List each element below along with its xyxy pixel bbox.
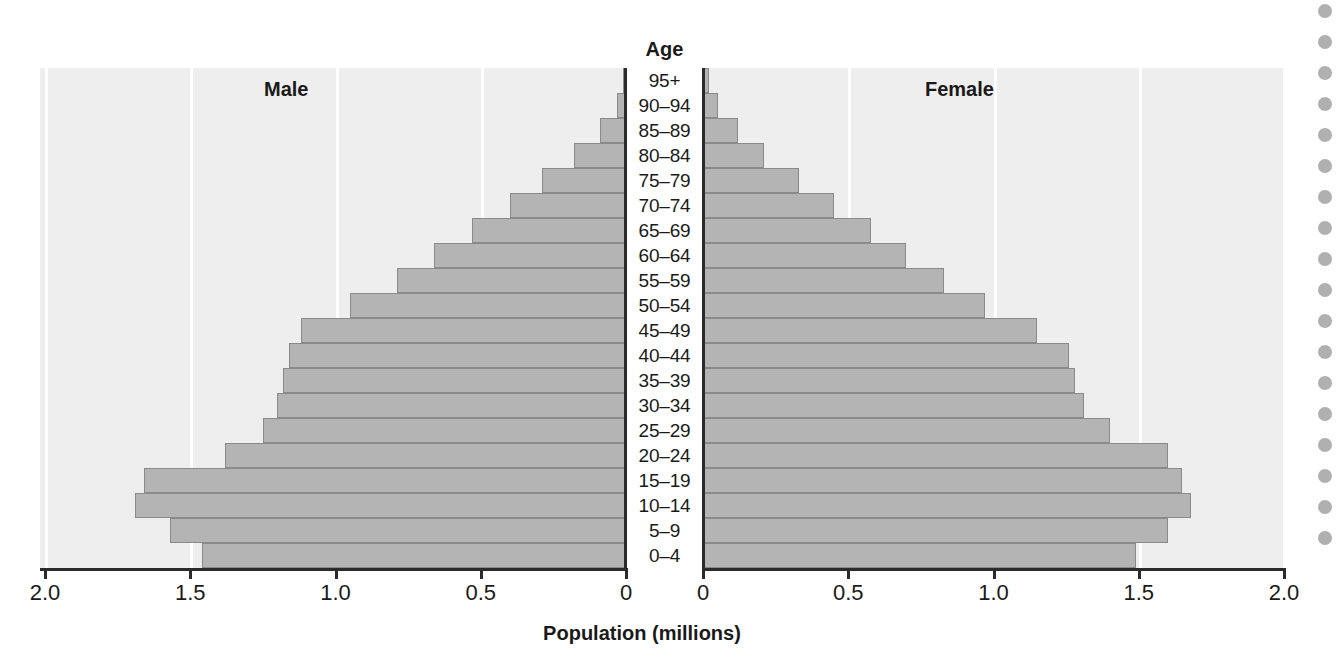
female-panel-label: Female	[925, 78, 994, 101]
age-group-label: 15–19	[626, 468, 703, 493]
age-group-label: 65–69	[626, 218, 703, 243]
scroll-dot[interactable]	[1318, 438, 1332, 452]
x-axis-tick	[1283, 568, 1286, 579]
female-bar	[703, 393, 1084, 418]
scroll-dot[interactable]	[1318, 97, 1332, 111]
male-bar	[225, 443, 626, 468]
age-group-label: 35–39	[626, 368, 703, 393]
x-axis-tick-label: 0.5	[465, 580, 496, 606]
female-bar	[703, 518, 1168, 543]
scroll-dot[interactable]	[1318, 407, 1332, 421]
female-bar	[703, 543, 1136, 568]
scroll-dot[interactable]	[1318, 190, 1332, 204]
male-bar	[144, 468, 626, 493]
female-bar	[703, 468, 1182, 493]
female-bar	[703, 143, 764, 168]
scroll-dot[interactable]	[1318, 531, 1332, 545]
male-panel-label: Male	[264, 78, 308, 101]
x-axis-tick-label: 1.5	[1123, 580, 1154, 606]
x-axis-tick-label: 1.0	[320, 580, 351, 606]
x-axis-tick-label: 0.5	[833, 580, 864, 606]
x-axis-tick-label: 2.0	[1269, 580, 1300, 606]
age-group-label: 30–34	[626, 393, 703, 418]
x-axis-tick	[847, 568, 850, 579]
x-axis-tick	[189, 568, 192, 579]
x-axis-tick-label: 1.5	[175, 580, 206, 606]
x-axis-tick-label: 0	[697, 580, 709, 606]
female-bar	[703, 493, 1191, 518]
x-axis-tick	[480, 568, 483, 579]
population-pyramid-chart: 95+90–9485–8980–8475–7970–7465–6960–6455…	[0, 0, 1344, 672]
male-bar	[301, 318, 626, 343]
scroll-dot[interactable]	[1318, 469, 1332, 483]
x-axis-tick	[702, 568, 705, 579]
female-bar	[703, 118, 738, 143]
female-bar	[703, 418, 1110, 443]
scroll-dot[interactable]	[1318, 252, 1332, 266]
scroll-dot[interactable]	[1318, 221, 1332, 235]
male-bar	[283, 368, 626, 393]
male-bar	[135, 493, 626, 518]
scroll-dot[interactable]	[1318, 283, 1332, 297]
age-group-label: 60–64	[626, 243, 703, 268]
x-axis-tick	[1138, 568, 1141, 579]
x-axis-title: Population (millions)	[0, 622, 1284, 645]
scrollbar-dots[interactable]	[1312, 4, 1338, 564]
scroll-dot[interactable]	[1318, 66, 1332, 80]
age-group-label: 75–79	[626, 168, 703, 193]
age-group-label: 90–94	[626, 93, 703, 118]
x-axis-tick-label: 1.0	[978, 580, 1009, 606]
female-bar	[703, 218, 871, 243]
male-bar	[397, 268, 626, 293]
male-bar	[263, 418, 626, 443]
age-group-label: 85–89	[626, 118, 703, 143]
age-group-label: 20–24	[626, 443, 703, 468]
x-axis-tick-label: 0	[620, 580, 632, 606]
x-axis-tick	[44, 568, 47, 579]
male-bar	[574, 143, 626, 168]
x-axis-tick	[993, 568, 996, 579]
scroll-dot[interactable]	[1318, 128, 1332, 142]
female-bar	[703, 93, 718, 118]
age-group-label: 40–44	[626, 343, 703, 368]
male-bar	[542, 168, 626, 193]
scroll-dot[interactable]	[1318, 500, 1332, 514]
male-bar	[202, 543, 626, 568]
age-axis-title: Age	[626, 38, 703, 61]
scroll-dot[interactable]	[1318, 4, 1332, 18]
male-bar	[289, 343, 626, 368]
female-bar	[703, 243, 906, 268]
scroll-dot[interactable]	[1318, 345, 1332, 359]
male-x-axis	[40, 568, 627, 571]
age-group-label: 70–74	[626, 193, 703, 218]
male-bar	[170, 518, 626, 543]
female-bar	[703, 168, 799, 193]
x-axis-tick-label: 2.0	[30, 580, 61, 606]
age-group-label: 45–49	[626, 318, 703, 343]
age-group-label: 25–29	[626, 418, 703, 443]
age-group-label: 5–9	[626, 518, 703, 543]
x-axis-tick	[625, 568, 628, 579]
female-bar	[703, 343, 1069, 368]
female-bar	[703, 268, 944, 293]
age-group-label: 80–84	[626, 143, 703, 168]
male-bar	[600, 118, 626, 143]
age-group-label: 50–54	[626, 293, 703, 318]
scroll-dot[interactable]	[1318, 314, 1332, 328]
female-bar	[703, 443, 1168, 468]
age-group-label: 95+	[626, 68, 703, 93]
male-bar	[472, 218, 626, 243]
male-bar	[277, 393, 626, 418]
scroll-dot[interactable]	[1318, 376, 1332, 390]
male-bar	[434, 243, 626, 268]
age-group-label: 10–14	[626, 493, 703, 518]
age-group-label: 55–59	[626, 268, 703, 293]
male-bar	[510, 193, 626, 218]
female-bar	[703, 368, 1075, 393]
x-axis-tick	[335, 568, 338, 579]
female-bar	[703, 318, 1037, 343]
age-group-label: 0–4	[626, 543, 703, 568]
scroll-dot[interactable]	[1318, 159, 1332, 173]
female-bar	[703, 193, 834, 218]
scroll-dot[interactable]	[1318, 35, 1332, 49]
